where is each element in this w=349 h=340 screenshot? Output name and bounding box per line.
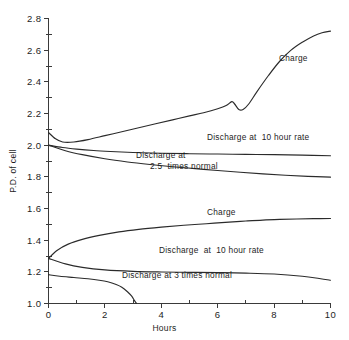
y-tick-label: 1.6 bbox=[27, 203, 41, 214]
discharge-10hr-upper-label: Discharge at 10 hour rate bbox=[207, 132, 310, 142]
y-tick-label: 2.0 bbox=[27, 140, 41, 151]
x-axis-title: Hours bbox=[152, 323, 176, 333]
y-tick-label: 2.6 bbox=[27, 45, 41, 56]
discharge-25x-upper-label-line1: Discharge at bbox=[136, 150, 186, 160]
discharge-3x-lower-label: Discharge at 3 times normal bbox=[122, 270, 232, 280]
series-line bbox=[49, 31, 331, 142]
x-tick-label: 2 bbox=[102, 309, 108, 320]
y-tick-label: 1.2 bbox=[27, 266, 41, 277]
charge-upper-label: Charge bbox=[279, 53, 308, 63]
discharge-25x-upper-label-line2: 2.5 times normal bbox=[150, 161, 218, 171]
x-tick-label: 4 bbox=[158, 309, 164, 320]
y-tick-label: 2.4 bbox=[27, 76, 41, 87]
charge-lower-label: Charge bbox=[207, 207, 236, 217]
x-tick-label: 6 bbox=[215, 309, 221, 320]
x-tick-label: 8 bbox=[271, 309, 277, 320]
y-tick-label: 1.8 bbox=[27, 171, 41, 182]
x-tick-label: 10 bbox=[325, 309, 336, 320]
curve-annotations-group: ChargeDischarge at 10 hour rateDischarge… bbox=[122, 53, 310, 280]
series-line bbox=[49, 145, 331, 156]
y-tick-label: 2.2 bbox=[27, 108, 41, 119]
chart-plot-area: 1.01.21.41.61.82.02.22.42.62.80246810 Ch… bbox=[0, 0, 349, 340]
discharge-10hr-lower-label: Discharge at 10 hour rate bbox=[159, 245, 264, 255]
y-tick-label: 1.0 bbox=[27, 298, 41, 309]
y-tick-label: 1.4 bbox=[27, 235, 41, 246]
x-tick-label: 0 bbox=[46, 309, 52, 320]
chart-figure: 1.01.21.41.61.82.02.22.42.62.80246810 Ch… bbox=[0, 0, 349, 340]
y-tick-label: 2.8 bbox=[27, 13, 41, 24]
y-axis-title: P.D. of cell bbox=[8, 149, 18, 193]
